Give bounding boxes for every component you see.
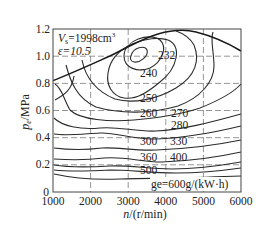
y-axis-label: pe/MPa <box>18 94 33 131</box>
svg-text:400: 400 <box>170 151 188 163</box>
svg-text:232: 232 <box>158 49 176 61</box>
svg-text:270: 270 <box>171 107 189 119</box>
svg-text:0.6: 0.6 <box>36 104 51 116</box>
svg-text:2000: 2000 <box>79 195 102 207</box>
svg-text:ε=10.5: ε=10.5 <box>58 45 91 57</box>
contour-232 <box>130 47 147 62</box>
svg-text:260: 260 <box>140 107 158 119</box>
svg-text:0.8: 0.8 <box>36 77 51 89</box>
unit-annotation: ge=600g/(kW·h) <box>151 178 229 191</box>
contour-labels: 232 240 250 260 270 280 300 330 360 400 … <box>140 49 189 176</box>
x-axis-label: n/(r/min) <box>123 207 166 221</box>
svg-text:0.4: 0.4 <box>36 131 51 143</box>
bsfc-contour-chart: 232 240 250 260 270 280 300 330 360 400 … <box>0 0 276 231</box>
svg-text:250: 250 <box>140 92 158 104</box>
svg-text:3000: 3000 <box>117 195 140 207</box>
svg-text:500: 500 <box>140 164 158 176</box>
svg-text:4000: 4000 <box>154 195 177 207</box>
svg-text:300: 300 <box>140 135 158 147</box>
svg-text:330: 330 <box>170 135 188 147</box>
svg-text:0.2: 0.2 <box>36 158 51 170</box>
x-axis-ticks: 1000 2000 3000 4000 5000 6000 <box>42 195 253 207</box>
svg-text:1.2: 1.2 <box>36 23 51 35</box>
svg-text:1.0: 1.0 <box>36 50 51 62</box>
svg-text:280: 280 <box>171 119 189 131</box>
svg-text:5000: 5000 <box>192 195 215 207</box>
svg-text:Vs=1998cm3: Vs=1998cm3 <box>58 31 116 46</box>
y-axis-ticks: 0 0.2 0.4 0.6 0.8 1.0 1.2 <box>36 23 51 198</box>
svg-text:6000: 6000 <box>230 195 253 207</box>
svg-text:1000: 1000 <box>42 195 65 207</box>
svg-text:240: 240 <box>140 67 158 79</box>
engine-annotation: Vs=1998cm3 ε=10.5 <box>58 31 116 57</box>
svg-text:360: 360 <box>140 151 158 163</box>
